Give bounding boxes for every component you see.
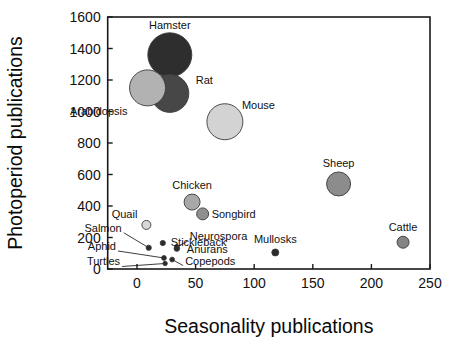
x-tick-label: 0 [133,275,141,291]
data-bubble[interactable] [197,208,209,220]
data-bubble[interactable] [327,172,351,196]
y-tick-label: 1200 [70,72,101,88]
data-bubble[interactable] [162,256,167,261]
data-point-label: Neurospora [190,230,248,242]
x-tick-label: 250 [418,275,442,291]
data-point-label: Turtles [87,255,121,267]
label-leader-line [118,251,164,258]
x-tick-label: 150 [301,275,325,291]
data-point-label: Rat [196,74,213,86]
data-point-label: Aphid [88,240,116,252]
data-point-label: Copepods [185,255,236,267]
chart-canvas: 0200400600800100012001400160005010015020… [0,0,456,340]
x-axis-title: Seasonality publications [164,315,373,337]
x-tick-label: 200 [360,275,384,291]
data-bubble[interactable] [163,261,167,265]
data-point-label: Songbird [212,208,256,220]
x-tick-label: 50 [188,275,204,291]
y-tick-label: 1400 [70,41,101,57]
data-bubble[interactable] [142,220,151,229]
data-bubble[interactable] [146,245,151,250]
data-point-label: Anurans [187,243,228,255]
bubble-chart: 0200400600800100012001400160005010015020… [0,0,456,340]
data-bubble[interactable] [130,70,166,106]
data-bubble[interactable] [148,33,192,77]
data-point-label: Cattle [389,221,418,233]
data-bubble[interactable] [184,194,200,210]
y-tick-label: 600 [77,167,101,183]
label-leader-line [122,263,165,266]
data-bubble[interactable] [397,236,409,248]
data-point-label: Arabidopsis [70,105,128,117]
data-bubble[interactable] [207,104,243,140]
y-tick-label: 800 [77,135,101,151]
axes-layer: 0200400600800100012001400160005010015020… [70,9,442,291]
data-bubble[interactable] [170,257,175,262]
data-point-label: Quail [112,208,138,220]
data-labels-layer: HamsterRatArabidopsisMouseSheepChickenSo… [70,19,417,268]
y-tick-label: 1600 [70,9,101,25]
data-point-label: Chicken [172,179,212,191]
data-point-label: Mouse [242,99,275,111]
data-point-label: Mullosks [254,233,297,245]
data-points-layer [130,33,409,266]
y-axis-title: Photoperiod publications [4,36,26,250]
x-tick-label: 100 [243,275,267,291]
data-point-label: Salmon [84,222,121,234]
data-point-label: Sheep [323,157,355,169]
data-bubble[interactable] [272,249,279,256]
data-bubble[interactable] [160,240,165,245]
data-point-label: Hamster [149,19,191,31]
y-tick-label: 400 [77,198,101,214]
label-leader-line [124,233,149,248]
